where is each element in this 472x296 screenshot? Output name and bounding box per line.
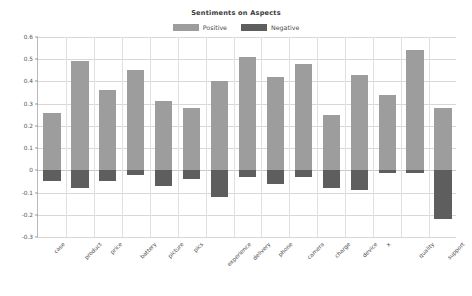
- bar-group[interactable]: [183, 37, 200, 237]
- x-tick-label: pics: [192, 241, 204, 253]
- bar-negative[interactable]: [351, 170, 368, 190]
- bar-negative[interactable]: [379, 170, 396, 172]
- y-tick-label: 0: [29, 167, 33, 173]
- bar-group[interactable]: [323, 37, 340, 237]
- plot-area: 0.60.50.40.30.20.10-0.1-0.2-0.3: [37, 37, 456, 237]
- bar-positive[interactable]: [99, 90, 116, 170]
- bar-positive[interactable]: [323, 115, 340, 171]
- bar-positive[interactable]: [43, 113, 60, 171]
- bar-series-container: [38, 37, 456, 237]
- bar-negative[interactable]: [183, 170, 200, 179]
- bar-positive[interactable]: [155, 101, 172, 170]
- bar-negative[interactable]: [155, 170, 172, 186]
- bar-group[interactable]: [351, 37, 368, 237]
- x-tick-label: experience: [226, 241, 252, 267]
- x-tick-label: x: [385, 241, 392, 248]
- bar-negative[interactable]: [71, 170, 88, 188]
- bar-group[interactable]: [43, 37, 60, 237]
- bar-group[interactable]: [211, 37, 228, 237]
- bar-group[interactable]: [267, 37, 284, 237]
- x-tick-label: battery: [139, 241, 158, 260]
- x-tick-label: camera: [306, 241, 325, 260]
- bar-negative[interactable]: [406, 170, 423, 172]
- x-tick-label: product: [83, 241, 102, 260]
- bar-positive[interactable]: [434, 108, 451, 170]
- legend-item-positive[interactable]: Positive: [173, 24, 227, 31]
- x-tick-label: quality: [418, 241, 436, 259]
- y-tick-label: -0.2: [22, 212, 33, 218]
- bar-negative[interactable]: [99, 170, 116, 181]
- bar-positive[interactable]: [211, 81, 228, 170]
- x-tick-label: delivery: [251, 241, 271, 261]
- bar-positive[interactable]: [183, 108, 200, 170]
- bar-positive[interactable]: [295, 64, 312, 171]
- bar-negative[interactable]: [295, 170, 312, 177]
- x-tick-label: price: [109, 241, 123, 255]
- x-tick-label: charge: [334, 241, 352, 259]
- chart-figure: Sentiments on Aspects PositiveNegative 0…: [0, 0, 472, 296]
- y-tick-label: -0.1: [22, 190, 33, 196]
- bar-group[interactable]: [127, 37, 144, 237]
- bar-positive[interactable]: [127, 70, 144, 170]
- gridline-y: [38, 237, 456, 238]
- bar-group[interactable]: [71, 37, 88, 237]
- bar-positive[interactable]: [267, 77, 284, 170]
- bar-group[interactable]: [434, 37, 451, 237]
- bar-group[interactable]: [99, 37, 116, 237]
- bar-group[interactable]: [155, 37, 172, 237]
- bar-negative[interactable]: [323, 170, 340, 188]
- y-tick-label: 0.4: [24, 78, 33, 84]
- bar-group[interactable]: [239, 37, 256, 237]
- x-axis-labels: caseproductpricebatterypicturepicsexperi…: [37, 239, 456, 296]
- bar-negative[interactable]: [211, 170, 228, 197]
- legend-swatch-negative: [241, 24, 267, 31]
- bar-group[interactable]: [379, 37, 396, 237]
- bar-negative[interactable]: [434, 170, 451, 219]
- chart-title: Sentiments on Aspects: [0, 9, 472, 17]
- y-tick-label: 0.1: [24, 145, 33, 151]
- bar-positive[interactable]: [71, 61, 88, 170]
- bar-group[interactable]: [295, 37, 312, 237]
- y-tick-label: 0.6: [24, 34, 33, 40]
- bar-negative[interactable]: [127, 170, 144, 174]
- bar-positive[interactable]: [351, 75, 368, 171]
- x-tick-label: support: [446, 241, 465, 260]
- legend-item-negative[interactable]: Negative: [241, 24, 299, 31]
- chart-legend: PositiveNegative: [0, 24, 472, 31]
- bar-positive[interactable]: [239, 57, 256, 170]
- x-tick-label: picture: [166, 241, 184, 259]
- bar-negative[interactable]: [43, 170, 60, 181]
- legend-label: Positive: [203, 24, 227, 31]
- y-tick-label: 0.3: [24, 101, 33, 107]
- bar-group[interactable]: [406, 37, 423, 237]
- legend-label: Negative: [271, 24, 299, 31]
- bar-negative[interactable]: [267, 170, 284, 183]
- y-tick-label: 0.5: [24, 56, 33, 62]
- legend-swatch-positive: [173, 24, 199, 31]
- x-tick-label: device: [361, 241, 378, 258]
- bar-negative[interactable]: [239, 170, 256, 177]
- bar-positive[interactable]: [379, 95, 396, 171]
- bar-positive[interactable]: [406, 50, 423, 170]
- x-tick-label: phone: [277, 241, 294, 258]
- x-tick-label: case: [53, 241, 66, 254]
- y-tick-label: -0.3: [22, 234, 33, 240]
- y-tick-label: 0.2: [24, 123, 33, 129]
